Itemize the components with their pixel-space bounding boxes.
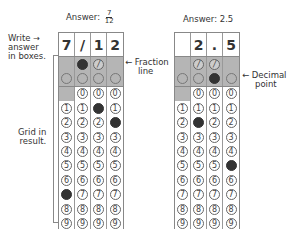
digit-bubble[interactable]: 6 bbox=[177, 175, 188, 186]
digit-bubble[interactable]: 9 bbox=[193, 218, 204, 229]
digit-bubble[interactable]: 7 bbox=[177, 189, 188, 200]
decimal-point-bubble[interactable] bbox=[93, 73, 104, 84]
digit-bubble[interactable]: 3 bbox=[209, 132, 220, 143]
digit-bubble[interactable]: 6 bbox=[61, 175, 72, 186]
digit-bubble[interactable]: 9 bbox=[77, 218, 88, 229]
digit-bubble[interactable]: 1 bbox=[193, 103, 204, 114]
digit-bubble[interactable]: 3 bbox=[93, 132, 104, 143]
answer-box[interactable]: 1 bbox=[91, 33, 107, 56]
digit-bubble[interactable]: 4 bbox=[226, 146, 237, 157]
digit-bubble[interactable]: 3 bbox=[77, 132, 88, 143]
digit-bubble[interactable]: 8 bbox=[93, 204, 104, 215]
digit-bubble[interactable]: 7 bbox=[209, 189, 220, 200]
digit-bubble[interactable]: 8 bbox=[226, 204, 237, 215]
digit-bubble[interactable]: 2 bbox=[77, 117, 88, 128]
bubble-cell: 8 bbox=[91, 202, 107, 216]
decimal-point-bubble[interactable] bbox=[193, 73, 204, 84]
digit-bubble[interactable]: 5 bbox=[193, 160, 204, 171]
digit-bubble[interactable]: 1 bbox=[177, 103, 188, 114]
digit-bubble[interactable]: 5 bbox=[177, 160, 188, 171]
digit-bubble[interactable]: 2 bbox=[177, 117, 188, 128]
digit-bubble[interactable]: 9 bbox=[226, 218, 237, 229]
bubble-cell: 0 bbox=[191, 87, 207, 101]
digit-bubble[interactable]: 2 bbox=[209, 117, 220, 128]
digit-bubble[interactable]: 3 bbox=[177, 132, 188, 143]
decimal-point-bubble[interactable] bbox=[77, 73, 88, 84]
digit-bubble[interactable]: 5 bbox=[110, 160, 121, 171]
digit-bubble[interactable]: 0 bbox=[226, 88, 237, 99]
digit-bubble[interactable]: 5 bbox=[61, 160, 72, 171]
filled-bubble[interactable] bbox=[77, 59, 88, 70]
digit-bubble[interactable]: 8 bbox=[209, 204, 220, 215]
decimal-point-bubble[interactable] bbox=[226, 73, 237, 84]
filled-bubble[interactable]: 2 bbox=[110, 117, 121, 128]
digit-bubble[interactable]: 9 bbox=[177, 218, 188, 229]
filled-bubble[interactable] bbox=[209, 73, 220, 84]
fraction-slash-bubble[interactable]: / bbox=[209, 59, 220, 70]
digit-bubble[interactable]: 7 bbox=[226, 189, 237, 200]
digit-bubble[interactable]: 9 bbox=[209, 218, 220, 229]
fraction-slash-bubble[interactable]: / bbox=[193, 59, 204, 70]
digit-bubble[interactable]: 6 bbox=[110, 175, 121, 186]
digit-bubble[interactable]: 8 bbox=[77, 204, 88, 215]
filled-bubble[interactable]: 1 bbox=[93, 103, 104, 114]
digit-bubble[interactable]: 2 bbox=[61, 117, 72, 128]
digit-bubble[interactable]: 5 bbox=[77, 160, 88, 171]
decimal-point-bubble[interactable] bbox=[110, 73, 121, 84]
answer-box[interactable]: 2 bbox=[191, 33, 207, 56]
digit-bubble[interactable]: 0 bbox=[110, 88, 121, 99]
digit-bubble[interactable]: 4 bbox=[110, 146, 121, 157]
digit-bubble[interactable]: 9 bbox=[110, 218, 121, 229]
digit-bubble[interactable]: 3 bbox=[110, 132, 121, 143]
filled-bubble[interactable]: 5 bbox=[226, 160, 237, 171]
filled-bubble[interactable]: 7 bbox=[61, 189, 72, 200]
digit-bubble[interactable]: 6 bbox=[93, 175, 104, 186]
digit-bubble[interactable]: 2 bbox=[93, 117, 104, 128]
digit-bubble[interactable]: 4 bbox=[61, 146, 72, 157]
filled-bubble[interactable]: 2 bbox=[193, 117, 204, 128]
digit-bubble[interactable]: 8 bbox=[110, 204, 121, 215]
answer-box[interactable]: 5 bbox=[223, 33, 239, 56]
digit-bubble[interactable]: 0 bbox=[77, 88, 88, 99]
digit-bubble[interactable]: 1 bbox=[226, 103, 237, 114]
digit-bubble[interactable]: 0 bbox=[209, 88, 220, 99]
decimal-point-bubble[interactable] bbox=[61, 73, 72, 84]
decimal-point-bubble[interactable] bbox=[177, 73, 188, 84]
digit-bubble[interactable]: 4 bbox=[209, 146, 220, 157]
digit-bubble[interactable]: 0 bbox=[193, 88, 204, 99]
digit-bubble[interactable]: 1 bbox=[77, 103, 88, 114]
digit-bubble[interactable]: 8 bbox=[61, 204, 72, 215]
digit-bubble[interactable]: 7 bbox=[193, 189, 204, 200]
digit-bubble[interactable]: 9 bbox=[61, 218, 72, 229]
answer-box[interactable]: / bbox=[75, 33, 91, 56]
digit-bubble[interactable]: 4 bbox=[93, 146, 104, 157]
digit-bubble[interactable]: 5 bbox=[93, 160, 104, 171]
digit-bubble[interactable]: 3 bbox=[226, 132, 237, 143]
digit-bubble[interactable]: 7 bbox=[77, 189, 88, 200]
digit-bubble[interactable]: 6 bbox=[193, 175, 204, 186]
digit-bubble[interactable]: 0 bbox=[93, 88, 104, 99]
digit-bubble[interactable]: 6 bbox=[226, 175, 237, 186]
digit-bubble[interactable]: 4 bbox=[77, 146, 88, 157]
digit-bubble[interactable]: 1 bbox=[209, 103, 220, 114]
answer-box[interactable] bbox=[175, 33, 191, 56]
digit-bubble[interactable]: 7 bbox=[110, 189, 121, 200]
digit-bubble[interactable]: 1 bbox=[61, 103, 72, 114]
digit-bubble[interactable]: 3 bbox=[61, 132, 72, 143]
digit-bubble[interactable]: 9 bbox=[93, 218, 104, 229]
digit-bubble[interactable]: 4 bbox=[177, 146, 188, 157]
answer-box[interactable]: 2 bbox=[107, 33, 123, 56]
digit-bubble[interactable]: 3 bbox=[193, 132, 204, 143]
fraction-slash-bubble[interactable]: / bbox=[93, 59, 104, 70]
digit-bubble[interactable]: 7 bbox=[93, 189, 104, 200]
digit-bubble[interactable]: 8 bbox=[193, 204, 204, 215]
digit-bubble[interactable]: 1 bbox=[110, 103, 121, 114]
answer-box[interactable]: 7 bbox=[59, 33, 75, 56]
digit-bubble[interactable]: 2 bbox=[226, 117, 237, 128]
digit-bubble[interactable]: 5 bbox=[209, 160, 220, 171]
digit-bubble[interactable]: 4 bbox=[193, 146, 204, 157]
digit-bubble[interactable]: 8 bbox=[177, 204, 188, 215]
digit-bubble[interactable]: 6 bbox=[209, 175, 220, 186]
answer-box[interactable]: . bbox=[207, 33, 223, 56]
digit-bubble[interactable]: 6 bbox=[77, 175, 88, 186]
